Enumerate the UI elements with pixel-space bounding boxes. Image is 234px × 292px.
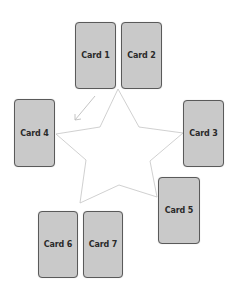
diagram-canvas: Card 1 Card 2 Card 3 Card 4 Card 5 Card … xyxy=(0,0,234,292)
card-7[interactable]: Card 7 xyxy=(83,211,123,278)
card-label: Card 6 xyxy=(44,240,73,249)
arrow-icon xyxy=(75,96,95,120)
card-label: Card 1 xyxy=(81,51,110,60)
card-label: Card 3 xyxy=(189,129,218,138)
card-label: Card 4 xyxy=(20,129,49,138)
card-label: Card 5 xyxy=(165,206,194,215)
card-label: Card 7 xyxy=(89,240,118,249)
card-2[interactable]: Card 2 xyxy=(121,22,162,89)
card-label: Card 2 xyxy=(127,51,156,60)
card-4[interactable]: Card 4 xyxy=(14,99,55,167)
card-3[interactable]: Card 3 xyxy=(183,100,224,167)
card-1[interactable]: Card 1 xyxy=(75,22,116,89)
card-5[interactable]: Card 5 xyxy=(158,177,200,244)
card-6[interactable]: Card 6 xyxy=(38,211,78,278)
